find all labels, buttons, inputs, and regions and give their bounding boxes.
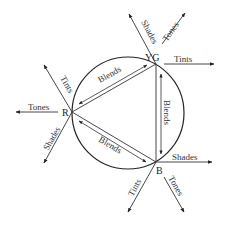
ray-label-b-tints: Tints: [126, 177, 144, 198]
blend-label-r-b: Blends: [97, 134, 124, 156]
ray-label-yg-tints: Tints: [174, 54, 193, 64]
color-wheel-diagram: Blends Blends Blends YG R B Shades Tones…: [0, 0, 227, 226]
vertex-label-b: B: [156, 165, 163, 176]
edge-r-b: [72, 112, 156, 162]
blend-label-yg-b: Blends: [162, 100, 172, 125]
ray-label-b-shades: Shades: [172, 152, 198, 162]
ray-label-yg-shades: Shades: [139, 18, 160, 46]
blend-label-r-yg: Blends: [96, 64, 123, 85]
ray-label-r-tints: Tints: [58, 74, 76, 95]
ray-label-r-tones: Tones: [28, 102, 50, 112]
ray-label-r-shades: Shades: [41, 124, 63, 152]
vertex-label-r: R: [62, 107, 69, 118]
